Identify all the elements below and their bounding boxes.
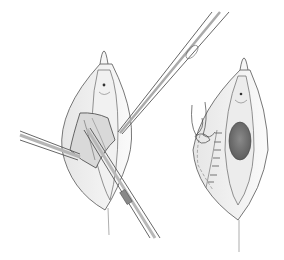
right-panel-sutured: [192, 58, 269, 252]
tip-shape: [100, 51, 108, 64]
dark-mass: [229, 122, 251, 160]
surgical-illustration: [0, 0, 284, 260]
urethral-point: [103, 84, 106, 87]
illustration-canvas: [0, 0, 284, 260]
tip-shape-right: [240, 58, 248, 70]
left-panel-dissection: [20, 12, 229, 238]
